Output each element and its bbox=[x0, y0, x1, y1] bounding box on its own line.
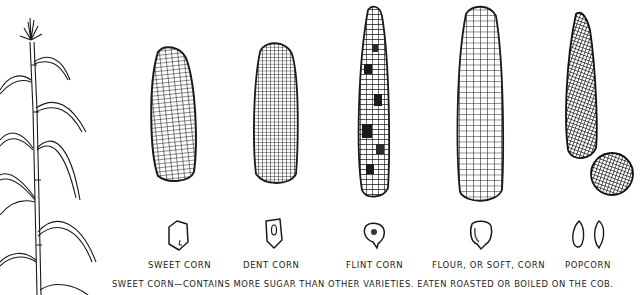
label-flint-corn: Flint Corn bbox=[346, 260, 403, 270]
label-popcorn: Popcorn bbox=[565, 260, 611, 270]
label-dent-corn: Dent Corn bbox=[243, 260, 299, 270]
label-sweet-corn: Sweet Corn bbox=[148, 260, 211, 270]
figure-caption: Sweet corn—contains more sugar than othe… bbox=[112, 279, 614, 289]
corn-stalk-illustration bbox=[0, 0, 110, 295]
kernel-sweet-corn bbox=[164, 218, 194, 254]
popcorn-kernels-icon bbox=[568, 218, 612, 252]
ear-flour-corn bbox=[452, 4, 508, 204]
sweet-corn-kernel-icon bbox=[164, 218, 194, 254]
flint-corn-kernel-icon bbox=[360, 220, 388, 250]
kernel-popcorn bbox=[568, 218, 612, 252]
flint-corn-ear-icon bbox=[354, 4, 394, 200]
kernel-flour-corn bbox=[466, 218, 496, 252]
sweet-corn-ear-icon bbox=[146, 44, 200, 184]
flour-corn-ear-icon bbox=[452, 4, 508, 204]
kernel-flint-corn bbox=[360, 220, 388, 250]
corn-stalk-icon bbox=[0, 0, 110, 295]
kernel-dent-corn bbox=[262, 216, 286, 252]
flour-corn-kernel-icon bbox=[466, 218, 496, 252]
ear-flint-corn bbox=[354, 4, 394, 200]
dent-corn-kernel-icon bbox=[262, 216, 286, 252]
popcorn-ear-icon bbox=[560, 10, 640, 200]
ear-sweet-corn bbox=[146, 44, 200, 184]
dent-corn-ear-icon bbox=[250, 40, 302, 186]
ear-dent-corn bbox=[250, 40, 302, 186]
label-flour-corn: Flour, or Soft, Corn bbox=[432, 260, 545, 270]
ear-popcorn bbox=[560, 10, 640, 200]
